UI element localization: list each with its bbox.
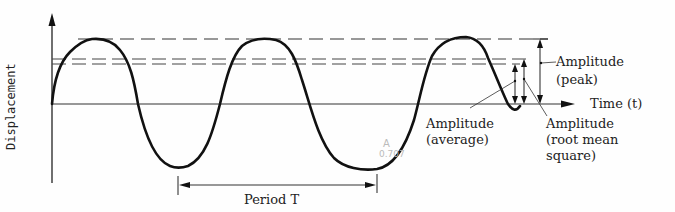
- pencil-mark: A: [383, 138, 390, 149]
- y-axis-arrow-icon: [49, 13, 56, 26]
- rms-leader-line: [524, 79, 547, 116]
- pencil-mark: 0.707: [379, 149, 405, 159]
- period-label: Period T: [244, 192, 299, 208]
- diagram-graphics: A 0.707: [0, 0, 675, 212]
- period-arrow-right-icon: [365, 182, 376, 188]
- amplitude-rms-line3: square): [546, 148, 618, 164]
- amplitude-rms-label: Amplitude (root mean square): [546, 116, 618, 164]
- sine-wave-diagram: A 0.707 Displacement Time (t) Amplitude …: [0, 0, 675, 212]
- amplitude-peak-line2: (peak): [556, 72, 624, 88]
- amplitude-peak-label: Amplitude (peak): [556, 54, 624, 88]
- amplitude-rms-line2: (root mean: [546, 132, 618, 148]
- amplitude-peak-line1: Amplitude: [556, 54, 624, 70]
- amplitude-average-label: Amplitude (average): [426, 116, 494, 148]
- average-arrow-up-icon: [512, 64, 518, 72]
- peak-leader-dot: [540, 62, 542, 64]
- amplitude-average-line2: (average): [426, 132, 494, 148]
- y-axis-label: Displacement: [4, 63, 18, 150]
- average-arrow-down-icon: [512, 96, 518, 104]
- time-axis-arrow-icon: [561, 101, 575, 108]
- x-axis-label: Time (t): [590, 96, 642, 112]
- rms-arrow-down-icon: [521, 96, 527, 104]
- amplitude-rms-line1: Amplitude: [546, 116, 618, 132]
- peak-arrow-up-icon: [537, 39, 543, 48]
- peak-arrow-down-icon: [537, 95, 543, 104]
- period-arrow-left-icon: [179, 182, 190, 188]
- waveform: [52, 37, 520, 170]
- peak-leader-line: [541, 62, 556, 63]
- amplitude-average-line1: Amplitude: [426, 116, 494, 132]
- average-leader-dot: [514, 80, 516, 82]
- rms-arrow-up-icon: [521, 59, 527, 67]
- rms-leader-dot: [523, 78, 525, 80]
